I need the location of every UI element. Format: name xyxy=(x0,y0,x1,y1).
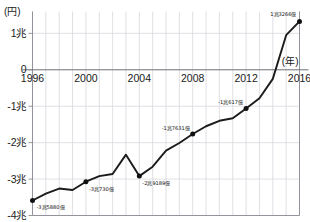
data-point-marker xyxy=(244,106,249,111)
data-point-label: -1兆7631億 xyxy=(162,125,190,132)
y-axis-tick-label: -2兆 xyxy=(7,136,27,148)
data-point-label: 1兆3266億 xyxy=(270,11,296,18)
data-point-marker xyxy=(30,198,35,203)
data-point-marker xyxy=(297,19,302,24)
y-axis-tick-label: -3兆 xyxy=(7,173,27,185)
x-axis-tick-label: 1996 xyxy=(21,72,45,84)
x-axis-tick-label: 2012 xyxy=(234,72,258,84)
chart-container: 1兆0-1兆-2兆-3兆-4兆 199620002004200820122016… xyxy=(0,0,310,222)
line-chart: 1兆0-1兆-2兆-3兆-4兆 199620002004200820122016… xyxy=(0,0,310,222)
y-axis-unit-label: (円) xyxy=(4,6,21,17)
data-point-label: -2兆9189億 xyxy=(142,180,170,187)
x-axis-tick-label: 2016 xyxy=(288,72,310,84)
data-point-marker xyxy=(137,174,142,179)
data-point-label: -3兆5880億 xyxy=(37,204,65,211)
x-axis-tick-label: 2008 xyxy=(181,72,205,84)
data-point-marker xyxy=(83,179,88,184)
x-axis-tick-label: 2000 xyxy=(74,72,98,84)
y-axis-tick-label: 1兆 xyxy=(11,27,28,39)
y-axis-tick-label: -1兆 xyxy=(7,100,27,112)
data-point-label: -1兆617億 xyxy=(218,99,243,106)
y-axis-tick-label: -4兆 xyxy=(7,209,27,221)
x-axis-unit-label: (年) xyxy=(282,55,299,67)
data-point-marker xyxy=(190,132,195,137)
x-axis-tick-label: 2004 xyxy=(128,72,152,84)
data-point-label: -3兆730億 xyxy=(89,186,114,193)
